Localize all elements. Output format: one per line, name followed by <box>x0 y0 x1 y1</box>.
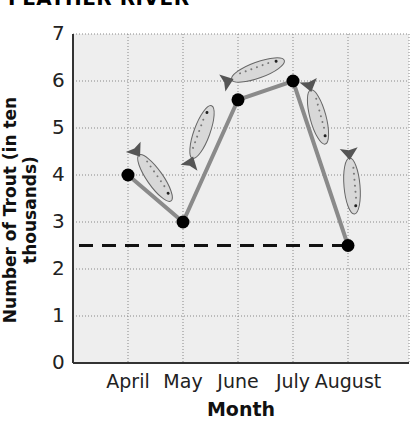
x-tick-label: April <box>106 370 149 392</box>
y-axis-label: Number of Trout (in ten thousands) <box>0 40 40 380</box>
x-tick-label: June <box>217 370 258 392</box>
y-tick-label: 0 <box>52 350 65 374</box>
x-tick-label: August <box>315 370 382 392</box>
y-tick-label: 7 <box>52 21 65 45</box>
x-tick-label: July <box>276 370 310 392</box>
x-axis-label: Month <box>73 398 409 420</box>
y-tick-label: 4 <box>52 162 65 186</box>
y-tick-label: 1 <box>52 303 65 327</box>
y-tick-label: 6 <box>52 68 65 92</box>
data-point-april <box>122 169 135 182</box>
data-point-may <box>177 216 190 229</box>
data-point-july <box>287 75 300 88</box>
data-point-june <box>232 93 245 106</box>
data-point-august <box>342 239 355 252</box>
y-tick-label: 3 <box>52 209 65 233</box>
y-tick-label: 5 <box>52 115 65 139</box>
y-tick-label: 2 <box>52 256 65 280</box>
x-tick-label: May <box>163 370 202 392</box>
